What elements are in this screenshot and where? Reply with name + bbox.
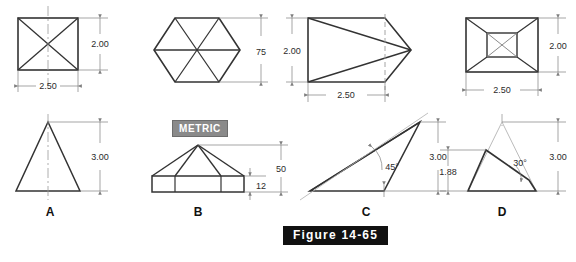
object-b-front-view bbox=[152, 145, 244, 192]
dim-label-a-top-width: 2.50 bbox=[39, 81, 57, 91]
object-c-group: 2.00 2.50 45° 3.00 C bbox=[283, 14, 447, 219]
dim-c-top-width: 2.50 bbox=[308, 82, 385, 102]
dim-label-d-top-height: 2.00 bbox=[549, 41, 567, 51]
object-label-c: C bbox=[362, 205, 371, 219]
dim-label-b-front-total: 50 bbox=[276, 164, 286, 174]
dim-label-a-front-height: 3.00 bbox=[91, 152, 109, 162]
dim-label-c-top-width: 2.50 bbox=[337, 90, 355, 100]
dim-c-top-height: 2.00 bbox=[283, 18, 308, 82]
dim-label-b-top-across: 75 bbox=[256, 47, 266, 57]
dim-label-c-front-angle: 45° bbox=[385, 162, 399, 172]
object-label-a: A bbox=[46, 205, 55, 219]
figure-caption-badge: Figure 14-65 bbox=[283, 226, 388, 245]
dim-b-front-base: 12 bbox=[244, 168, 266, 200]
figure-14-65-drawing: 2.00 2.50 3.00 A bbox=[0, 0, 576, 262]
dim-a-front-height: 3.00 bbox=[48, 122, 109, 191]
object-a-top-view bbox=[18, 6, 78, 86]
metric-badge: METRIC bbox=[172, 120, 228, 137]
dim-d-top-height: 2.00 bbox=[538, 18, 567, 72]
object-d-group: 2.00 2.50 30° 3.00 bbox=[439, 18, 567, 219]
object-b-top-view bbox=[154, 18, 240, 82]
object-label-d: D bbox=[498, 205, 507, 219]
object-b-group: 75 50 12 B bbox=[152, 18, 288, 219]
object-a-group: 2.00 2.50 3.00 A bbox=[16, 6, 109, 219]
dim-label-b-front-base: 12 bbox=[256, 181, 266, 191]
dim-label-a-top-height: 2.00 bbox=[91, 39, 109, 49]
dim-a-top-height: 2.00 bbox=[78, 18, 109, 70]
object-d-top-view bbox=[466, 18, 538, 72]
object-c-top-view bbox=[308, 14, 411, 90]
phantom-outline bbox=[468, 122, 536, 191]
dim-label-d-front-angle: 30° bbox=[513, 158, 527, 168]
dim-d-front-height: 3.00 bbox=[502, 122, 567, 191]
auxiliary-line bbox=[300, 113, 428, 200]
dim-label-d-front-cut: 1.88 bbox=[439, 167, 457, 177]
dim-d-top-width: 2.50 bbox=[466, 72, 538, 96]
dim-label-c-top-height: 2.00 bbox=[283, 46, 301, 56]
object-a-front-view bbox=[16, 114, 80, 200]
object-label-b: B bbox=[194, 205, 203, 219]
dim-label-d-top-width: 2.50 bbox=[493, 85, 511, 95]
object-d-front-view: 30° bbox=[468, 114, 536, 191]
dim-b-front-total: 50 bbox=[198, 145, 288, 192]
dim-label-c-front-height: 3.00 bbox=[429, 152, 447, 162]
object-c-front-view: 45° bbox=[300, 113, 428, 200]
dim-label-d-front-height: 3.00 bbox=[549, 152, 567, 162]
